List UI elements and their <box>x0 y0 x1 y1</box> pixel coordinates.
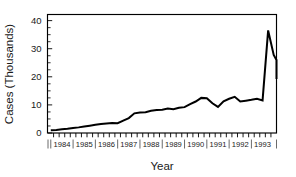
y-axis-major-ticks <box>48 21 52 133</box>
x-axis-ticks <box>54 133 271 137</box>
x-tick-label: 1986 <box>98 140 115 149</box>
y-tick-label: 0 <box>36 127 41 138</box>
y-tick-label: 20 <box>31 71 42 82</box>
y-tick-label: 30 <box>31 43 42 54</box>
x-tick-label: 1984 <box>53 140 70 149</box>
x-tick-label: 1991 <box>210 140 227 149</box>
x-tick-label: 1987 <box>120 140 137 149</box>
chart-figure: 010203040 198419851986198719881989199019… <box>0 0 296 177</box>
y-tick-label: 10 <box>31 99 42 110</box>
y-axis-tick-labels: 010203040 <box>31 15 42 138</box>
x-tick-label: 1990 <box>187 140 204 149</box>
x-tick-label: 1988 <box>143 140 160 149</box>
data-series-line <box>51 30 277 130</box>
x-tick-label: 1993 <box>254 140 271 149</box>
plot-frame <box>48 15 277 134</box>
x-tick-label: 1992 <box>232 140 249 149</box>
x-tick-label: 1989 <box>165 140 182 149</box>
x-axis-label: Year <box>150 160 173 172</box>
x-tick-label: 1985 <box>76 140 93 149</box>
y-axis-label: Cases (Thousands) <box>3 24 15 125</box>
line-chart-svg: 010203040 198419851986198719881989199019… <box>0 0 296 177</box>
y-tick-label: 40 <box>31 15 42 26</box>
